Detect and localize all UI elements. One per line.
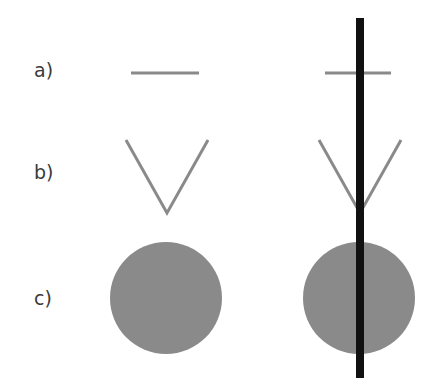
left-v-shape bbox=[126, 140, 208, 213]
left-circle bbox=[110, 242, 222, 354]
diagram-canvas bbox=[0, 0, 434, 385]
vertical-occluder-bar bbox=[356, 18, 364, 378]
